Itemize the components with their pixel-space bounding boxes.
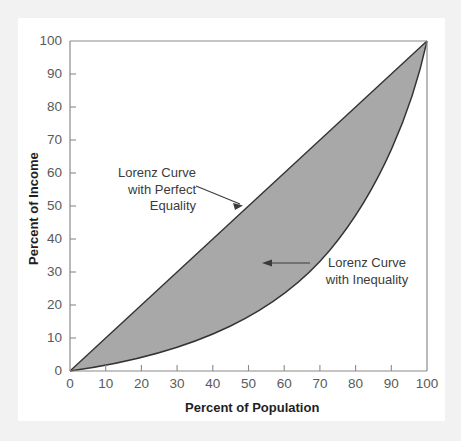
y-tick-label-100: 100 (30, 34, 62, 48)
x-tick-label-80: 80 (342, 377, 370, 391)
annotation-equality-line-2: with Perfect (83, 182, 196, 199)
x-tick-label-50: 50 (235, 377, 263, 391)
y-tick-label-0: 0 (30, 364, 62, 378)
y-tick-label-30: 30 (30, 265, 62, 279)
lorenz-curve-chart (0, 0, 461, 441)
annotation-inequality: Lorenz Curve with Inequality (312, 255, 422, 288)
y-tick-label-70: 70 (30, 133, 62, 147)
x-axis-title: Percent of Population (185, 400, 319, 415)
annotation-equality-line-1: Lorenz Curve (83, 165, 196, 182)
x-tick-label-60: 60 (270, 377, 298, 391)
x-tick-label-0: 0 (56, 377, 84, 391)
x-tick-label-100: 100 (413, 377, 441, 391)
annotation-perfect-equality: Lorenz Curve with Perfect Equality (83, 165, 196, 215)
x-tick-label-30: 30 (163, 377, 191, 391)
y-axis-title: Percent of Income (26, 152, 41, 265)
figure-page: 100 90 80 70 60 50 40 30 20 10 0 0 10 20… (0, 0, 461, 441)
y-tick-label-20: 20 (30, 298, 62, 312)
y-tick-label-10: 10 (30, 331, 62, 345)
annotation-inequality-line-2: with Inequality (312, 272, 422, 289)
y-axis-ticks (70, 74, 76, 338)
x-axis-ticks (106, 365, 392, 371)
equality-leader-arrow (196, 186, 243, 210)
annotation-equality-line-3: Equality (83, 198, 196, 215)
annotation-inequality-line-1: Lorenz Curve (312, 255, 422, 272)
x-tick-label-20: 20 (127, 377, 155, 391)
x-tick-label-10: 10 (92, 377, 120, 391)
x-tick-label-90: 90 (377, 377, 405, 391)
x-tick-label-40: 40 (199, 377, 227, 391)
x-tick-label-70: 70 (306, 377, 334, 391)
y-tick-label-80: 80 (30, 100, 62, 114)
y-tick-label-90: 90 (30, 67, 62, 81)
